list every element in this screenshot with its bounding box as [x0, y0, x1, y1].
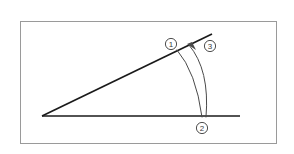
- diagram-canvas: 1 3 2: [0, 0, 294, 154]
- label-text-2: 2: [200, 124, 205, 133]
- angle-diagram-svg: 1 3 2: [0, 0, 294, 154]
- label-marker-3: 3: [204, 40, 215, 51]
- label-marker-1: 1: [165, 38, 176, 49]
- outer-arc: [189, 45, 207, 117]
- diagram-frame: [21, 22, 277, 144]
- label-text-1: 1: [169, 40, 174, 49]
- slanted-ray: [42, 34, 212, 116]
- label-text-3: 3: [208, 42, 213, 51]
- label-marker-2: 2: [196, 122, 207, 133]
